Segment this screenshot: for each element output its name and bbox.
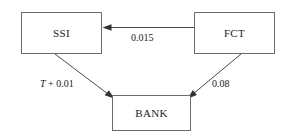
arrow-head-fct-to-ssi [103,24,112,31]
edge-fct-to-ssi [103,24,195,31]
node-bank[interactable]: BANK [112,95,191,131]
node-ssi[interactable]: SSI [21,12,102,54]
node-fct-label: FCT [224,28,245,39]
node-fct[interactable]: FCT [194,12,275,54]
edge-label-fct-to-ssi: 0.015 [131,33,154,43]
edge-ssi-to-bank [55,54,114,99]
edge-label-ssi-to-bank: T + 0.01 [40,79,74,89]
node-bank-label: BANK [135,108,167,119]
diagram-canvas: SSI FCT BANK 0.015 T + 0.01 0.08 [0,0,287,138]
node-ssi-label: SSI [53,28,70,39]
edge-label-fct-to-bank: 0.08 [212,79,230,89]
edge-fct-to-bank [187,54,241,99]
edge-label-ssi-to-bank-offset: + 0.01 [46,78,74,89]
